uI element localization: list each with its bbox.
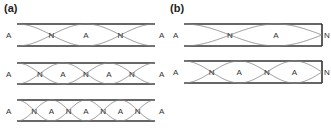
- antinode-label: A: [159, 107, 165, 116]
- antinode-label: A: [237, 68, 243, 77]
- antinode-label: A: [6, 107, 12, 116]
- antinode-label: A: [118, 107, 124, 116]
- tube-row: ANAN: [173, 24, 330, 46]
- antinode-label: A: [173, 68, 179, 77]
- node-label: N: [83, 70, 89, 79]
- antinode-label: A: [292, 68, 298, 77]
- node-label: N: [129, 70, 135, 79]
- node-label: N: [324, 31, 330, 40]
- antinode-label: A: [159, 70, 165, 79]
- node-label: N: [135, 107, 141, 116]
- antinode-label: A: [49, 107, 55, 116]
- node-label: N: [37, 70, 43, 79]
- panel-a: (a)ANANAANANANAANANANANA: [4, 2, 165, 121]
- tube-row: ANANANA: [6, 63, 165, 84]
- node-label: N: [118, 31, 124, 40]
- node-label: N: [66, 107, 72, 116]
- node-label: N: [49, 31, 55, 40]
- antinode-label: A: [60, 70, 66, 79]
- tube-row: ANANA: [6, 24, 165, 46]
- node-label: N: [324, 68, 330, 77]
- panel-b: (b)ANANANANAN: [170, 2, 330, 83]
- antinode-label: A: [83, 107, 89, 116]
- panel-label: (b): [170, 2, 184, 14]
- node-label: N: [100, 107, 106, 116]
- node-label: N: [31, 107, 37, 116]
- tube-row: ANANAN: [173, 61, 330, 83]
- antinode-label: A: [159, 31, 165, 40]
- node-label: N: [209, 68, 215, 77]
- antinode-label: A: [6, 31, 12, 40]
- node-label: N: [264, 68, 270, 77]
- antinode-label: A: [173, 31, 179, 40]
- node-label: N: [227, 31, 233, 40]
- antinode-label: A: [106, 70, 112, 79]
- antinode-label: A: [6, 70, 12, 79]
- antinode-label: A: [83, 31, 89, 40]
- tube-row: ANANANANA: [6, 100, 165, 121]
- standing-wave-diagram: (a)ANANAANANANAANANANANA(b)ANANANANAN: [0, 0, 331, 129]
- antinode-label: A: [273, 31, 279, 40]
- panel-label: (a): [4, 2, 18, 14]
